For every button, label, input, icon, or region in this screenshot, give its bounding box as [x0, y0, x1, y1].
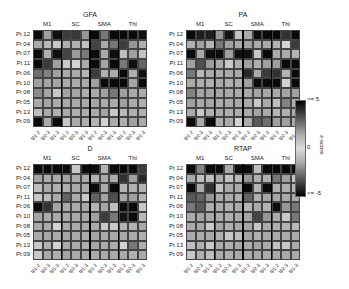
heatmap-cell	[119, 40, 129, 50]
heatmap-cell	[291, 40, 301, 50]
row-label: Pt 07	[161, 184, 183, 190]
heatmap-cell	[186, 193, 196, 203]
row-label: Pt 11	[8, 60, 30, 66]
heatmap-cell	[281, 202, 291, 212]
heatmap-cell	[71, 88, 81, 98]
heatmap-cell	[224, 164, 234, 174]
heatmap-cell	[128, 98, 138, 108]
heatmap-cell	[33, 202, 43, 212]
heatmap-cell	[71, 78, 81, 88]
heatmap-cell	[186, 30, 196, 40]
heatmap-cell	[128, 202, 138, 212]
heatmap-cell	[128, 193, 138, 203]
heatmap-cell	[100, 30, 110, 40]
heatmap-cell	[62, 88, 72, 98]
heatmap-cell	[272, 212, 282, 222]
row-label: Pt 04	[161, 175, 183, 181]
heatmap-cell	[43, 174, 53, 184]
heatmap-cell	[215, 231, 225, 241]
heatmap-cell	[43, 212, 53, 222]
heatmap-cell	[33, 241, 43, 251]
heatmap-cell	[71, 174, 81, 184]
heatmap-cell	[215, 183, 225, 193]
heatmap-cell	[90, 49, 100, 59]
heatmap-cell	[62, 108, 72, 118]
heatmap-cell	[196, 108, 206, 118]
heatmap-cell	[100, 174, 110, 184]
heatmap-cell	[196, 78, 206, 88]
heatmap-cell	[90, 193, 100, 203]
row-label: Pt 06	[8, 203, 30, 209]
heatmap-cell	[43, 222, 53, 232]
heatmap-cell	[196, 250, 206, 260]
heatmap-cell	[281, 222, 291, 232]
heatmap-cell	[100, 40, 110, 50]
panel-title: GFA	[33, 11, 147, 18]
heatmap-cell	[186, 241, 196, 251]
heatmap-cell	[186, 88, 196, 98]
heatmap-cell	[43, 88, 53, 98]
heatmap-cell	[215, 174, 225, 184]
heatmap-cell	[272, 222, 282, 232]
heatmap-cell	[243, 174, 253, 184]
heatmap-cell	[100, 222, 110, 232]
column-group-label: SMA	[243, 155, 272, 161]
row-label: Pt 13	[161, 242, 183, 248]
heatmap-cell	[100, 164, 110, 174]
heatmap-cell	[43, 202, 53, 212]
heatmap-cell	[43, 193, 53, 203]
heatmap-cell	[196, 40, 206, 50]
heatmap-cell	[71, 164, 81, 174]
heatmap-cell	[100, 117, 110, 127]
heatmap-cell	[71, 49, 81, 59]
heatmap-cell	[100, 250, 110, 260]
heatmap-cell	[43, 231, 53, 241]
row-label: Pt 11	[161, 194, 183, 200]
heatmap-cell	[119, 250, 129, 260]
heatmap-cell	[253, 69, 263, 79]
heatmap-cell	[138, 202, 148, 212]
heatmap-cell	[33, 193, 43, 203]
colorbar-top-label: >= 5	[307, 96, 319, 102]
row-label: Pt 08	[161, 89, 183, 95]
heatmap-cell	[281, 30, 291, 40]
panel-title: PA	[186, 11, 300, 18]
heatmap-cell	[100, 59, 110, 69]
heatmap-cell	[253, 202, 263, 212]
heatmap-cell	[128, 117, 138, 127]
heatmap-cell	[243, 98, 253, 108]
heatmap-cell	[186, 174, 196, 184]
heatmap-cell	[186, 183, 196, 193]
row-label: Pt 09	[161, 118, 183, 124]
heatmap-cell	[62, 174, 72, 184]
heatmap-cell	[186, 212, 196, 222]
row-label: Pt 09	[8, 118, 30, 124]
heatmap-cell	[90, 241, 100, 251]
heatmap-cell	[100, 69, 110, 79]
row-label: Pt 05	[161, 232, 183, 238]
heatmap-cell	[90, 231, 100, 241]
heatmap-cell	[291, 30, 301, 40]
heatmap-cell	[128, 183, 138, 193]
heatmap-cell	[128, 212, 138, 222]
column-group-label: Thl	[272, 21, 301, 27]
heatmap-cell	[215, 78, 225, 88]
row-label: Pt 12	[8, 31, 30, 37]
row-label: Pt 06	[161, 70, 183, 76]
heatmap-cell	[291, 59, 301, 69]
heatmap-cell	[100, 49, 110, 59]
heatmap-cell	[100, 241, 110, 251]
heatmap-cell	[62, 212, 72, 222]
row-label: Pt 12	[161, 165, 183, 171]
heatmap-cell	[272, 98, 282, 108]
heatmap-cell	[215, 241, 225, 251]
heatmap-cell	[71, 241, 81, 251]
heatmap-cell	[62, 78, 72, 88]
heatmap-cell	[253, 212, 263, 222]
heatmap-cell	[281, 49, 291, 59]
heatmap-cell	[291, 78, 301, 88]
heatmap-cell	[71, 202, 81, 212]
heatmap-cell	[43, 69, 53, 79]
heatmap-cell	[291, 222, 301, 232]
heatmap-cell	[224, 117, 234, 127]
